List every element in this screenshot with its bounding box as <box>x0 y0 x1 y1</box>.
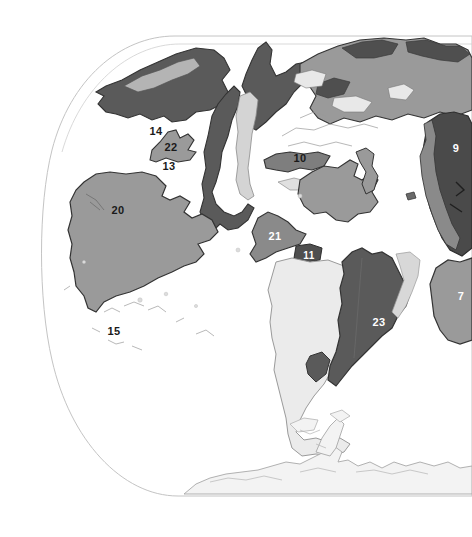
world-map-figure: 14 22 13 10 9 12 20 21 11 7 15 23 <box>0 0 472 537</box>
world-map-svg <box>0 0 472 537</box>
